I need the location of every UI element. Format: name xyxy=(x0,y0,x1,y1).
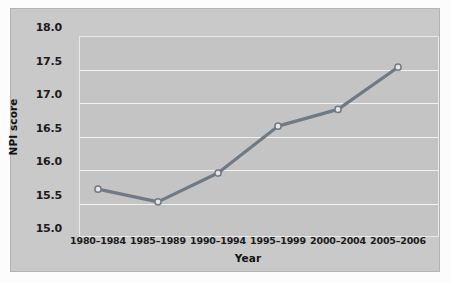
data-point xyxy=(95,186,101,192)
data-point xyxy=(215,170,221,176)
x-axis-title: Year xyxy=(235,252,261,264)
series-markers xyxy=(95,64,401,205)
chart-figure: 15.015.516.016.517.017.518.0 1980–198419… xyxy=(0,0,451,283)
data-point xyxy=(155,199,161,205)
data-point xyxy=(335,106,341,112)
data-layer xyxy=(0,0,451,283)
data-point xyxy=(275,123,281,129)
data-point xyxy=(395,64,401,70)
series-line xyxy=(98,67,398,202)
y-axis-title: NPI score xyxy=(7,99,19,156)
